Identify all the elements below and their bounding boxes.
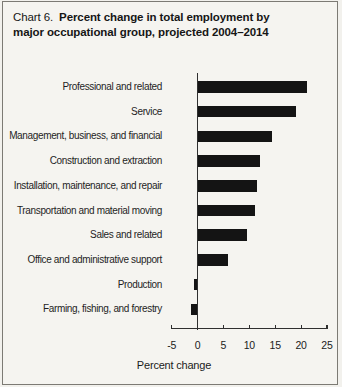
category-label: Construction and extraction [0,154,162,168]
axis-tick [326,325,327,329]
category-label: Production [0,278,162,292]
category-label: Farming, fishing, and forestry [0,302,162,316]
bar [198,81,308,93]
x-tick-label: 15 [262,339,288,351]
bar [198,131,273,143]
bar [198,180,257,192]
x-tick-label: 20 [288,339,314,351]
x-tick-label: 25 [314,339,340,351]
bar [191,304,198,316]
plot-area: Professional and relatedServiceManagemen… [0,0,342,387]
category-label: Sales and related [0,228,162,242]
x-tick-label: 0 [185,339,211,351]
axis-tick [275,325,276,329]
bar [198,155,260,167]
axis-tick [223,325,224,329]
category-label: Office and administrative support [0,253,162,267]
category-label: Management, business, and financial [0,129,162,143]
bar [194,279,198,291]
bar [198,106,296,118]
x-tick-label: -5 [159,339,185,351]
x-axis-title: Percent change [0,359,342,371]
bar [198,229,248,241]
category-label: Service [0,105,162,119]
axis-tick [301,325,302,329]
category-label: Professional and related [0,80,162,94]
axis-tick [249,325,250,329]
x-tick-label: 10 [236,339,262,351]
category-label: Installation, maintenance, and repair [0,179,162,193]
category-label: Transportation and material moving [0,204,162,218]
axis-tick [171,325,172,329]
x-tick-label: 5 [210,339,236,351]
bar [198,205,255,217]
bar [198,254,228,266]
